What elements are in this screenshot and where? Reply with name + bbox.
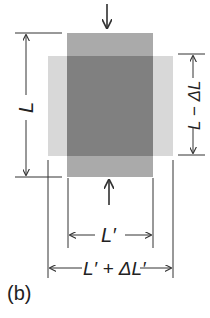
panel-label: (b) — [7, 282, 31, 304]
label-L-prime: L′ — [101, 224, 117, 246]
label-L: L — [15, 102, 37, 113]
label-L-prime-plus-deltaL-prime: L′ + ΔL′ — [83, 258, 147, 279]
overlap-region-lower — [67, 124, 153, 156]
label-L-minus-deltaL: L − ΔL — [185, 81, 204, 130]
deformation-diagram: L L − ΔL L′ L′ + ΔL′ (b) — [0, 0, 210, 318]
